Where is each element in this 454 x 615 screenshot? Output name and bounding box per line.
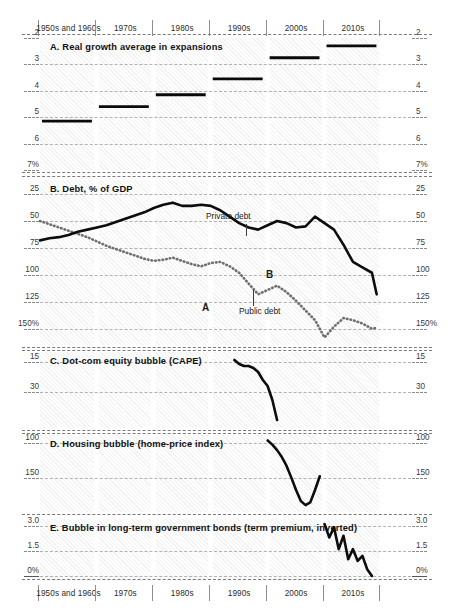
series-path-term-premium-inverted-: [325, 524, 372, 576]
panel-rule-e-bottom: [22, 579, 432, 580]
leader-public-debt: [253, 290, 254, 306]
panel-rule-d-top: [22, 433, 432, 434]
decade-label-2: 1980s: [154, 18, 211, 38]
annotation-point-a: A: [202, 302, 209, 313]
decade-tick-4: [266, 585, 267, 601]
panel-rule-top-of-a: [22, 34, 432, 35]
series-layer-c: [0, 352, 454, 428]
panel-rule-c-top: [22, 350, 432, 351]
panel-a: 7%7%6655443322A. Real growth average in …: [0, 38, 454, 170]
decade-label-5: 2010s: [325, 583, 382, 603]
series-path-private-debt: [40, 221, 377, 337]
decade-label-3: 1990s: [211, 18, 268, 38]
series-layer-e: [0, 519, 454, 581]
annotation-private-debt: Private debt: [206, 211, 251, 221]
decade-label-5: 2010s: [325, 18, 382, 38]
panel-e: 0%0%1.51.53.03.0E. Bubble in long-term g…: [0, 519, 454, 581]
panel-rule-c-d: [22, 430, 432, 431]
series-path-cape: [234, 360, 277, 420]
series-path-home-price-index: [268, 441, 320, 506]
decade-tick-end: [379, 585, 380, 601]
decade-label-1: 1970s: [97, 583, 154, 603]
decade-tick-1: [95, 585, 96, 601]
annotation-point-b: B: [266, 269, 273, 280]
decade-tick-5: [323, 585, 324, 601]
panel-b: 150%150%125125100100757550502525B. Debt,…: [0, 180, 454, 345]
annotation-public-debt: Public debt: [239, 306, 280, 316]
decade-label-0: 1950s and 1960s: [40, 18, 97, 38]
decade-tick-2: [152, 585, 153, 601]
decade-label-4: 2000s: [268, 18, 325, 38]
leader-private-debt: [246, 224, 247, 236]
series-layer-b: [0, 180, 454, 345]
decade-label-4: 2000s: [268, 583, 325, 603]
panel-d: 150150100100D. Housing bubble (home-pric…: [0, 435, 454, 512]
series-layer-a: [0, 38, 454, 170]
decade-axis-bottom: 1950s and 1960s1970s1980s1990s2000s2010s: [0, 583, 454, 603]
decade-label-3: 1990s: [211, 583, 268, 603]
panel-c: 30301515C. Dot-com equity bubble (CAPE): [0, 352, 454, 428]
panel-rule-d-e: [22, 514, 432, 515]
tick-mark-right-a-0: [412, 170, 427, 171]
decade-label-2: 1980s: [154, 583, 211, 603]
panel-rule-b-top: [22, 176, 432, 177]
decade-axis-top: 1950s and 1960s1970s1980s1990s2000s2010s: [0, 18, 454, 38]
economic-cycles-figure: 1950s and 1960s1970s1980s1990s2000s2010s…: [0, 0, 454, 615]
series-layer-d: [0, 435, 454, 512]
tick-mark-left-a-0: [24, 170, 39, 171]
panel-rule-b-c: [22, 347, 432, 348]
decade-label-0: 1950s and 1960s: [40, 583, 97, 603]
panel-rule-a-b: [22, 172, 432, 173]
decade-label-1: 1970s: [97, 18, 154, 38]
decade-tick-3: [209, 585, 210, 601]
